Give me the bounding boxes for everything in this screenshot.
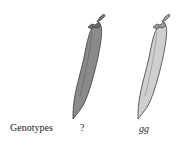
pod-light-icon (138, 14, 170, 119)
genotype-label-unknown: ? (80, 122, 84, 133)
pod-dark-icon (73, 14, 105, 119)
genotypes-row-label: Genotypes (10, 122, 53, 133)
genotype-label-gg: gg (139, 123, 149, 134)
